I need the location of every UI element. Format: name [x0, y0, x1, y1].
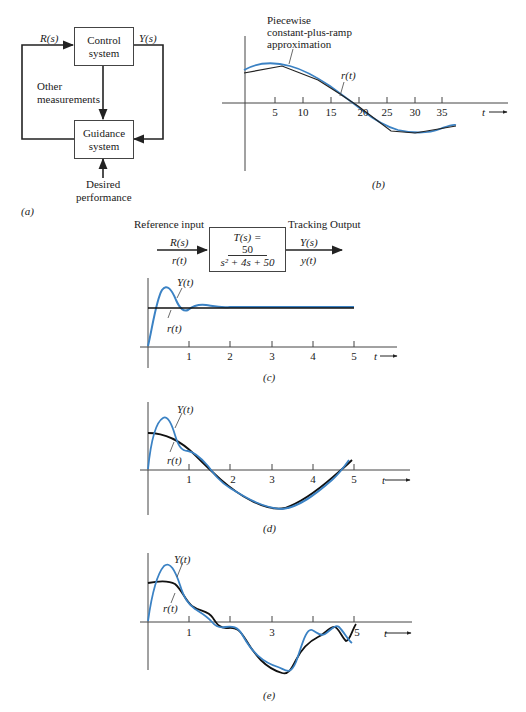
tick-label: 1 [186, 626, 192, 638]
e-t-axis-label: t [384, 627, 387, 639]
tick-label: 3 [269, 626, 275, 638]
tick-label: 5 [354, 626, 360, 638]
e-label-yt: Y(t) [174, 553, 191, 565]
panel-e-chart [0, 0, 526, 712]
caption-e: (e) [263, 689, 275, 701]
e-label-rt: r(t) [163, 602, 178, 614]
